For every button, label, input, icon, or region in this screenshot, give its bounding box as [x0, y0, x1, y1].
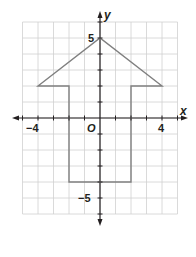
axis-labels: x y O −4 4 5 −5	[26, 8, 188, 204]
x-axis-label: x	[179, 104, 188, 118]
y-tick-label-neg5: −5	[78, 192, 91, 204]
origin-label: O	[87, 122, 96, 134]
x-axis-left-arrow-icon	[12, 116, 19, 121]
x-tick-label-4: 4	[158, 122, 165, 134]
y-tick-label-5: 5	[88, 32, 94, 44]
coordinate-plane: x y O −4 4 5 −5	[0, 0, 196, 257]
y-axis-down-arrow-icon	[98, 219, 103, 226]
y-axis-up-arrow-icon	[98, 11, 103, 18]
y-axis-label: y	[103, 8, 112, 22]
x-tick-label-neg4: −4	[26, 122, 39, 134]
